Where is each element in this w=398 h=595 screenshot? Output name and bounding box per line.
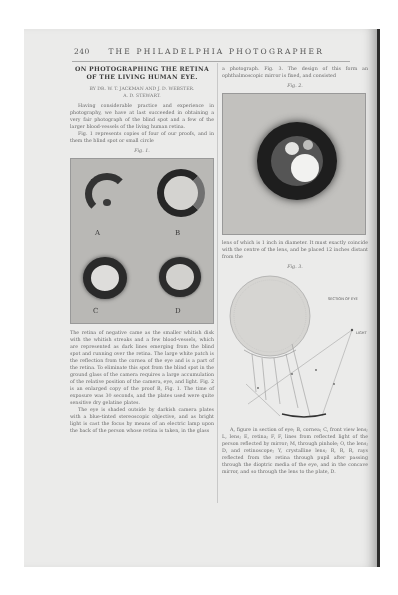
page-binding-edge xyxy=(377,29,380,567)
title-line-2: OF THE LIVING HUMAN EYE. xyxy=(70,73,214,81)
header-rule xyxy=(72,61,350,62)
page-number: 240 xyxy=(74,47,90,56)
paragraph: Fig. 1 represents copies of four of our … xyxy=(70,130,214,144)
paragraph: lens of which is 1 inch in diameter. It … xyxy=(222,239,368,260)
optic-disc-highlight xyxy=(291,154,319,182)
paragraph: The eye is shaded outside by darkish cam… xyxy=(70,406,214,434)
paragraph: A, figure in section of eye; B, cornea; … xyxy=(222,426,368,475)
left-column: ON PHOTOGRAPHING THE RETINA OF THE LIVIN… xyxy=(70,65,214,434)
column-divider xyxy=(217,63,218,503)
figure-label-d: D xyxy=(175,307,181,315)
byline-line-2: A. D. STEWART. xyxy=(70,92,214,99)
diagram-label-light: LIGHT xyxy=(356,331,368,335)
paragraph: Having considerable practice and experie… xyxy=(70,102,214,130)
article-title: ON PHOTOGRAPHING THE RETINA OF THE LIVIN… xyxy=(70,65,214,81)
retina-image-a xyxy=(85,173,129,215)
retina-image-d xyxy=(159,257,201,297)
figure-caption: Fig. 2. xyxy=(222,83,368,88)
journal-title: THE PHILADELPHIA PHOTOGRAPHER xyxy=(108,47,324,56)
figure-caption: Fig. 1. xyxy=(70,148,214,153)
figure-label-b: B xyxy=(175,229,180,237)
byline-line-1: BY DR. W. T. JACKMAN AND J. D. WEBSTER. xyxy=(70,85,214,92)
right-column: a photograph. Fig. 3. The design of this… xyxy=(222,65,368,475)
retina-image-b xyxy=(157,169,205,217)
paragraph: a photograph. Fig. 3. The design of this… xyxy=(222,65,368,79)
reflection-highlight xyxy=(285,142,299,155)
figure-3-diagram: SECTION OF EYE LIGHT xyxy=(222,274,372,424)
retina-image-c xyxy=(83,257,127,299)
figure-2-plate xyxy=(222,93,366,235)
retina-spot-a xyxy=(103,199,111,206)
figure-label-a: A xyxy=(95,229,100,237)
figure-label-c: C xyxy=(93,307,98,315)
scanned-page: 240 THE PHILADELPHIA PHOTOGRAPHER ON PHO… xyxy=(24,29,380,567)
reflection-highlight-small xyxy=(303,140,313,150)
diagram-label-section: SECTION OF EYE xyxy=(328,297,358,301)
title-line-1: ON PHOTOGRAPHING THE RETINA xyxy=(70,65,214,73)
running-head: 240 THE PHILADELPHIA PHOTOGRAPHER xyxy=(74,47,364,59)
byline: BY DR. W. T. JACKMAN AND J. D. WEBSTER. … xyxy=(70,85,214,99)
figure-caption: Fig. 3. xyxy=(222,264,368,269)
eye-ray-diagram-icon: SECTION OF EYE LIGHT xyxy=(222,274,372,424)
paragraph: The retina of negative came as the small… xyxy=(70,329,214,406)
figure-1-plate: A B C D xyxy=(70,158,214,324)
